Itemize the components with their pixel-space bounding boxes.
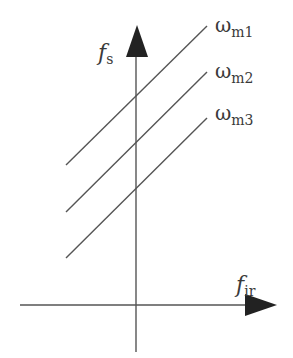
label-wm1: ωm1 — [215, 13, 254, 40]
y-axis-label: fs — [96, 40, 113, 67]
y-axis-arrowhead-icon — [126, 25, 148, 57]
label-wm2: ωm2 — [215, 59, 254, 86]
frequency-diagram: fs fir ωm1 ωm2 ωm3 — [0, 0, 293, 358]
label-wm3: ωm3 — [215, 101, 254, 128]
x-axis-label: fir — [234, 272, 256, 299]
